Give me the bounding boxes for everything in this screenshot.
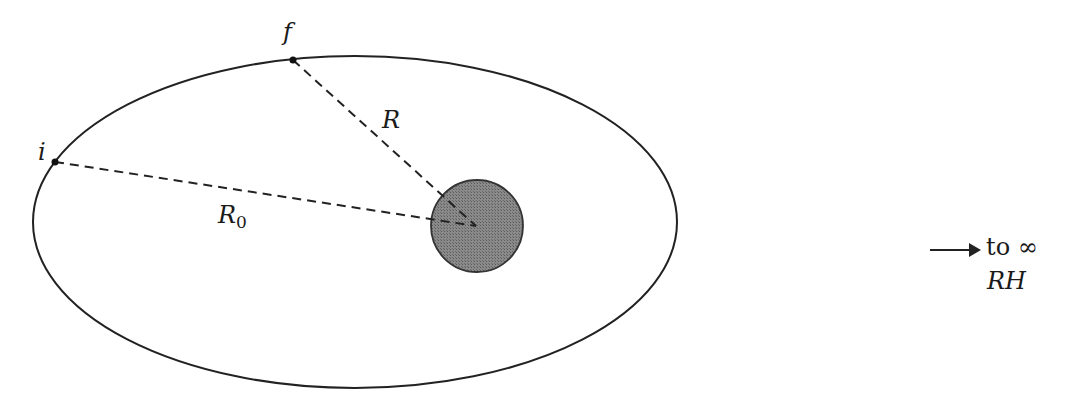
point-f-marker [290, 57, 297, 64]
point-i-marker [52, 159, 59, 166]
central-body [431, 180, 523, 272]
label-radius-R: R [382, 108, 400, 132]
label-point-f: f [283, 20, 292, 44]
orbit-diagram [0, 0, 1085, 398]
radius-R0-line [55, 162, 476, 226]
arrow-head-icon [969, 243, 981, 257]
label-R0-subscript: 0 [236, 212, 247, 232]
label-radius-R0: R0 [218, 203, 247, 231]
label-to-infinity: to ∞ [986, 235, 1038, 259]
orbit-ellipse [33, 56, 677, 388]
label-point-i: i [38, 140, 46, 164]
label-RH: RH [987, 269, 1026, 293]
label-R0-main: R [218, 201, 236, 229]
radius-R-line [293, 60, 476, 226]
